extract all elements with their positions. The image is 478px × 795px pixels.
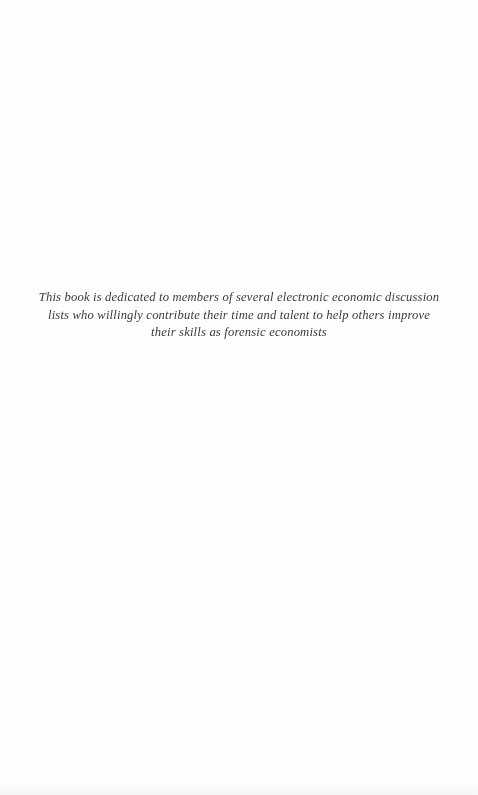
dedication-line-2: lists who willingly contribute their tim… bbox=[22, 307, 456, 325]
scan-grain-texture bbox=[0, 0, 478, 795]
scan-bottom-edge-shadow bbox=[0, 773, 478, 795]
dedication-line-1: This book is dedicated to members of sev… bbox=[22, 289, 456, 307]
dedication-block: This book is dedicated to members of sev… bbox=[0, 289, 478, 342]
scanned-page: This book is dedicated to members of sev… bbox=[0, 0, 478, 795]
dedication-line-3: their skills as forensic economists bbox=[22, 324, 456, 342]
